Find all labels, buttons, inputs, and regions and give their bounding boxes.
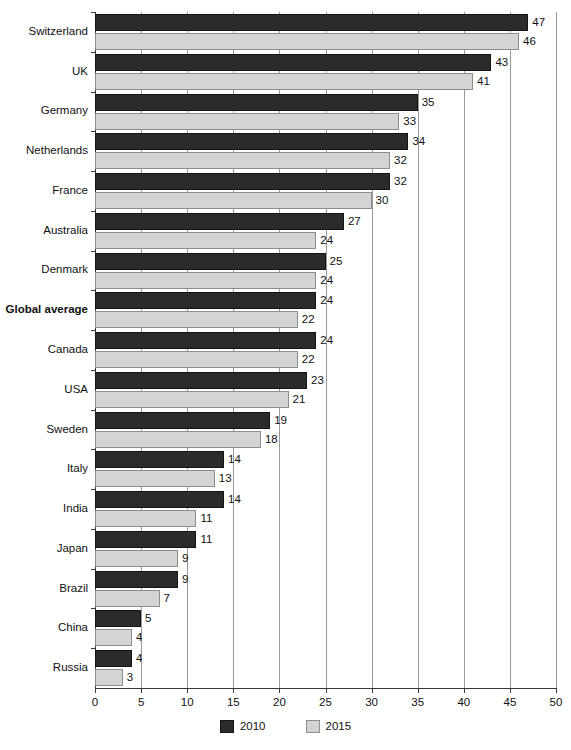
bar-value-label: 27: [348, 213, 361, 230]
bar-value-label: 24: [320, 332, 333, 349]
bar-2010-japan: [95, 531, 196, 548]
bar-group: 2422: [95, 330, 556, 370]
bar-value-label: 23: [311, 372, 324, 389]
y-tick: [91, 569, 96, 570]
bar-value-label: 11: [200, 510, 212, 527]
bar-value-label: 11: [200, 531, 212, 548]
bar-value-label: 21: [293, 391, 306, 408]
bar-value-label: 9: [182, 550, 188, 567]
legend-swatch-2015: [306, 720, 320, 733]
x-tick-5: [141, 688, 142, 693]
bar-value-label: 9: [182, 571, 188, 588]
y-tick: [91, 410, 96, 411]
bar-2015-global-average: [95, 311, 298, 328]
bar-groups: 4746434135333432323027242524242224222321…: [95, 12, 556, 688]
bar-value-label: 25: [330, 253, 343, 270]
bar-value-label: 5: [145, 610, 151, 627]
bar-2010-usa: [95, 372, 307, 389]
y-tick: [91, 608, 96, 609]
bar-group: 119: [95, 529, 556, 569]
category-label-netherlands: Netherlands: [0, 144, 88, 156]
legend-item-2015: 2015: [306, 720, 352, 733]
bar-value-label: 41: [477, 73, 490, 90]
bar-2010-denmark: [95, 253, 326, 270]
bar-value-label: 19: [274, 412, 287, 429]
category-label-australia: Australia: [0, 224, 88, 236]
category-label-italy: Italy: [0, 462, 88, 474]
bar-group: 54: [95, 608, 556, 648]
bar-group: 1411: [95, 489, 556, 529]
bar-2015-india: [95, 510, 196, 527]
bar-2010-netherlands: [95, 133, 408, 150]
bar-2015-uk: [95, 73, 473, 90]
bar-value-label: 24: [320, 292, 333, 309]
bar-value-label: 3: [127, 669, 133, 686]
bar-2015-italy: [95, 470, 215, 487]
category-label-russia: Russia: [0, 661, 88, 673]
bar-2015-china: [95, 629, 132, 646]
bar-2010-india: [95, 491, 224, 508]
x-tick-15: [233, 688, 234, 693]
category-label-japan: Japan: [0, 542, 88, 554]
bar-2015-netherlands: [95, 152, 390, 169]
x-axis: 05101520253035404550: [95, 688, 556, 718]
bar-value-label: 7: [164, 590, 170, 607]
bar-chart: SwitzerlandUKGermanyNetherlandsFranceAus…: [0, 0, 571, 750]
y-tick: [91, 211, 96, 212]
legend-item-2010: 2010: [220, 720, 266, 733]
y-tick: [91, 12, 96, 13]
x-tick-label-0: 0: [92, 696, 98, 708]
category-label-denmark: Denmark: [0, 263, 88, 275]
bar-value-label: 14: [228, 451, 241, 468]
bar-group: 2524: [95, 251, 556, 291]
bar-group: 3533: [95, 92, 556, 132]
bar-value-label: 18: [265, 431, 278, 448]
bar-2015-sweden: [95, 431, 261, 448]
y-tick: [91, 489, 96, 490]
y-tick: [91, 290, 96, 291]
category-label-switzerland: Switzerland: [0, 25, 88, 37]
x-tick-35: [418, 688, 419, 693]
x-tick-label-10: 10: [181, 696, 194, 708]
category-label-china: China: [0, 621, 88, 633]
legend-swatch-2010: [220, 720, 234, 733]
chart-legend: 20102015: [0, 716, 571, 736]
bar-value-label: 24: [320, 232, 333, 249]
gridline-50: [556, 12, 557, 688]
bar-value-label: 32: [394, 152, 407, 169]
bar-2015-usa: [95, 391, 289, 408]
bar-group: 1918: [95, 410, 556, 450]
bar-2010-italy: [95, 451, 224, 468]
bar-group: 3230: [95, 171, 556, 211]
bar-2010-canada: [95, 332, 316, 349]
bar-group: 97: [95, 569, 556, 609]
x-tick-label-25: 25: [319, 696, 332, 708]
x-tick-45: [510, 688, 511, 693]
bar-value-label: 4: [136, 650, 142, 667]
bar-value-label: 35: [422, 94, 435, 111]
y-tick: [91, 131, 96, 132]
x-tick-40: [464, 688, 465, 693]
bar-2015-france: [95, 192, 372, 209]
y-tick: [91, 171, 96, 172]
y-tick: [91, 370, 96, 371]
bar-value-label: 34: [412, 133, 425, 150]
x-tick-25: [326, 688, 327, 693]
bar-value-label: 33: [403, 113, 416, 130]
bar-group: 2422: [95, 290, 556, 330]
bar-2015-brazil: [95, 590, 160, 607]
x-tick-label-50: 50: [550, 696, 563, 708]
plot-area: 4746434135333432323027242524242224222321…: [95, 12, 556, 688]
bar-2015-russia: [95, 669, 123, 686]
category-label-global-average: Global average: [0, 303, 88, 315]
category-label-uk: UK: [0, 65, 88, 77]
y-tick: [91, 92, 96, 93]
bar-value-label: 4: [136, 629, 142, 646]
bar-2015-canada: [95, 351, 298, 368]
bar-2010-germany: [95, 94, 418, 111]
bar-2010-brazil: [95, 571, 178, 588]
bar-2010-russia: [95, 650, 132, 667]
x-tick-label-30: 30: [365, 696, 378, 708]
bar-group: 2321: [95, 370, 556, 410]
y-tick: [91, 529, 96, 530]
